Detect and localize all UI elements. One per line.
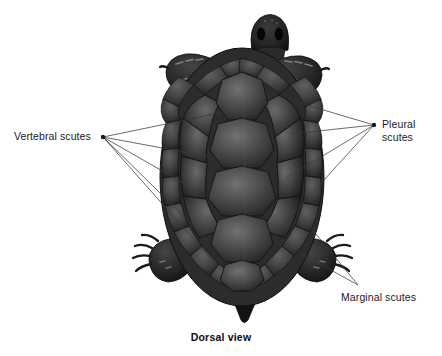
label-marginal-scutes: Marginal scutes <box>341 291 441 304</box>
vertebral-scute-5 <box>220 260 264 291</box>
label-vertebral-scutes: Vertebral scutes <box>14 130 106 143</box>
right-eye <box>275 28 283 41</box>
figure-caption: Dorsal view <box>0 331 442 343</box>
pleural-scute <box>180 156 207 199</box>
carapace <box>160 48 324 306</box>
left-eye <box>257 28 265 41</box>
turtle-body <box>133 15 352 323</box>
vertebral-scute-2 <box>210 118 274 168</box>
vertebral-scute-4 <box>211 214 273 262</box>
marginal-scute <box>305 148 323 178</box>
pleural-anchor-dot <box>372 123 376 127</box>
vertebral-scute-3 <box>208 166 276 216</box>
label-pleural-scutes: Pleural scutes <box>382 118 440 143</box>
pleural-scute <box>277 156 304 199</box>
marginal-scute <box>303 120 322 150</box>
marginal-scute <box>303 176 322 206</box>
marginal-scute <box>162 148 180 178</box>
